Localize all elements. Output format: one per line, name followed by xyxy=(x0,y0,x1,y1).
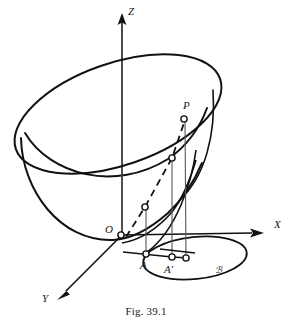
marker-A xyxy=(143,251,149,257)
x-axis-arrowhead xyxy=(250,228,264,237)
marker-P-base xyxy=(183,255,189,261)
figure-drawing xyxy=(0,0,292,326)
ellipse-C xyxy=(141,232,249,285)
paraboloid-surface xyxy=(0,31,237,240)
marker-midpoint-lower xyxy=(142,204,148,210)
base-ellipse-curve xyxy=(141,232,249,285)
point-label-a: A xyxy=(140,260,147,271)
point-label-o: O xyxy=(105,224,113,235)
figure-caption: Fig. 39.1 xyxy=(0,305,292,317)
marker-O xyxy=(118,232,124,238)
y-axis xyxy=(57,235,122,300)
axis-label-z: Z xyxy=(128,6,134,17)
y-axis-line xyxy=(66,235,122,291)
projector-lines xyxy=(122,120,186,258)
axis-label-y: Y xyxy=(42,293,48,304)
axis-label-x: X xyxy=(274,219,281,230)
curve-label-c: ℬ xyxy=(215,266,222,275)
point-label-a-prime: A' xyxy=(164,264,173,275)
marker-P xyxy=(181,116,187,122)
bowl-left-wall xyxy=(21,138,113,240)
paraboloid-rim-ellipse xyxy=(0,31,237,198)
marker-A-prime xyxy=(169,254,175,260)
figure-container: Z X Y O P A A' ℬ Fig. 39.1 xyxy=(0,0,292,326)
bowl-inner-horizon xyxy=(25,108,207,176)
dashed-generator-line xyxy=(126,120,185,237)
base-line-Aprime xyxy=(160,249,195,253)
point-label-p: P xyxy=(183,100,190,111)
x-axis-line xyxy=(122,233,252,235)
marker-midpoint-upper xyxy=(169,155,175,161)
dashed-chord-OP xyxy=(126,120,185,237)
